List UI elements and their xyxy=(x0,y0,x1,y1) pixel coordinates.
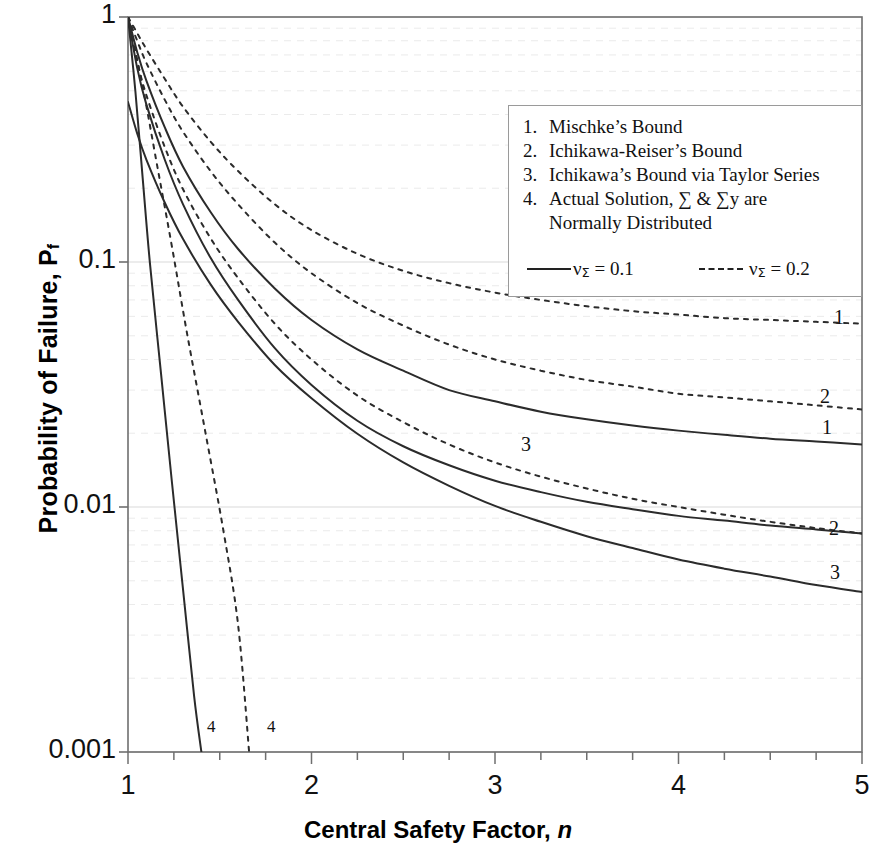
legend-item: 1.Mischke’s Bound xyxy=(523,115,820,139)
legend-item-number: 3. xyxy=(523,163,549,187)
x-axis-label-text: Central Safety Factor, xyxy=(304,816,557,843)
legend-item-number: 2. xyxy=(523,139,549,163)
legend-key-solid: νΣ = 0.1 xyxy=(527,258,634,280)
curve-number-label: 3 xyxy=(521,433,531,456)
curve-number-label: 4 xyxy=(267,717,276,737)
legend-key-dashed: νΣ = 0.2 xyxy=(699,258,810,280)
y-tick-label-3: 0.001 xyxy=(0,734,116,765)
curve-number-label: 2 xyxy=(829,517,839,540)
curve-number-label: 4 xyxy=(207,717,216,737)
y-axis-label: Probability of Failure, Pf xyxy=(34,129,63,649)
legend-box: 1.Mischke’s Bound2.Ichikawa-Reiser’s Bou… xyxy=(508,105,862,297)
sigma-subscript: Σ xyxy=(758,265,766,280)
nu-symbol: ν xyxy=(749,258,758,279)
legend-item-label: Mischke’s Bound xyxy=(549,115,820,139)
solid-line-sample-icon xyxy=(527,268,571,270)
legend-item-list: 1.Mischke’s Bound2.Ichikawa-Reiser’s Bou… xyxy=(523,115,820,235)
x-tick-label-3: 4 xyxy=(649,770,709,801)
x-tick-label-2: 3 xyxy=(465,770,525,801)
legend-key-value: = 0.2 xyxy=(766,258,810,279)
dashed-line-sample-icon xyxy=(699,268,743,270)
figure-container: Probability of Failure, Pf Central Safet… xyxy=(0,0,876,866)
legend-item-number: 1. xyxy=(523,115,549,139)
curve-number-label: 2 xyxy=(820,385,830,408)
legend-key-value: = 0.1 xyxy=(590,258,634,279)
legend-item-label-continued: Normally Distributed xyxy=(549,211,820,235)
legend-item: 3.Ichikawa’s Bound via Taylor Series xyxy=(523,163,820,187)
x-axis-label: Central Safety Factor, n xyxy=(0,816,876,844)
curve-number-label: 1 xyxy=(834,306,844,329)
legend-item-number: 4. xyxy=(523,187,549,211)
legend-key-label: νΣ = 0.2 xyxy=(749,258,810,280)
y-tick-label-1: 0.1 xyxy=(0,244,116,275)
y-tick-label-0: 1 xyxy=(0,0,116,30)
legend-item-label: Ichikawa’s Bound via Taylor Series xyxy=(549,163,820,187)
legend-item-label: Actual Solution, ∑ & ∑y are xyxy=(549,187,820,211)
x-tick-label-1: 2 xyxy=(282,770,342,801)
x-axis-label-italic: n xyxy=(557,816,572,843)
legend-item: 4.Actual Solution, ∑ & ∑y are xyxy=(523,187,820,211)
legend-item: 2.Ichikawa-Reiser’s Bound xyxy=(523,139,820,163)
sigma-subscript: Σ xyxy=(582,265,590,280)
nu-symbol: ν xyxy=(573,258,582,279)
x-tick-label-4: 5 xyxy=(832,770,876,801)
x-tick-label-0: 1 xyxy=(98,770,158,801)
y-tick-label-2: 0.01 xyxy=(0,489,116,520)
legend-item-label: Ichikawa-Reiser’s Bound xyxy=(549,139,820,163)
legend-key-label: νΣ = 0.1 xyxy=(573,258,634,280)
curve-number-label: 3 xyxy=(830,561,840,584)
curve-number-label: 1 xyxy=(822,416,832,439)
